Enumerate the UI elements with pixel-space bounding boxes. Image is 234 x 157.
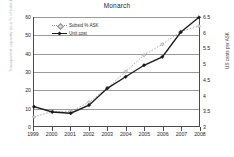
y-axis-left-ticks: 0102030405060 [7, 17, 31, 127]
legend-solid-line-icon [52, 31, 67, 36]
legend-item-unit-cost: Unit cost [52, 30, 132, 37]
data-point-marker [197, 24, 200, 27]
y-axis-right-tick-label: 3.5 [203, 109, 225, 114]
y-axis-left-tick-label: 30 [9, 70, 31, 75]
y-axis-left-tick-label: 20 [9, 88, 31, 93]
legend-item-subsid: Subsid % ASK [52, 22, 132, 29]
y-axis-left-tick-label: 40 [9, 51, 31, 56]
data-point-marker [32, 105, 35, 108]
y-axis-left-tick-label: 0 [9, 125, 31, 130]
y-axis-right-tick-label: 5.5 [203, 46, 225, 51]
x-axis-tick-label: 2008 [187, 131, 213, 137]
y-axis-left-tick-label: 60 [9, 15, 31, 20]
y-axis-right-tick-label: 6.5 [203, 15, 225, 20]
y-axis-right-tick-label: 6 [203, 30, 225, 35]
legend-label-subsid: Subsid % ASK [69, 23, 99, 29]
legend-label-unit-cost: Unit cost [69, 31, 87, 37]
data-point-marker [142, 53, 145, 56]
chart-title: Monarch [0, 2, 234, 9]
y-axis-right-tick-label: 3 [203, 125, 225, 130]
y-axis-right-ticks: 33.544.555.566.5 [203, 17, 227, 127]
x-axis-ticks: 1999200020012002200320042005200620072008 [33, 131, 200, 145]
y-axis-right-tick-label: 4 [203, 93, 225, 98]
legend-dashed-line-icon [52, 23, 67, 28]
y-axis-right-tick-label: 4.5 [203, 77, 225, 82]
data-point-marker [124, 70, 127, 73]
series-line [34, 26, 199, 117]
chart-container: Monarch Transparent capacity as a % of t… [0, 0, 234, 157]
chart-legend: Subsid % ASK Unit cost [52, 22, 132, 38]
y-axis-right-tick-label: 5 [203, 62, 225, 67]
data-point-marker [32, 115, 35, 118]
y-axis-left-tick-label: 50 [9, 33, 31, 38]
y-axis-left-tick-label: 10 [9, 106, 31, 111]
